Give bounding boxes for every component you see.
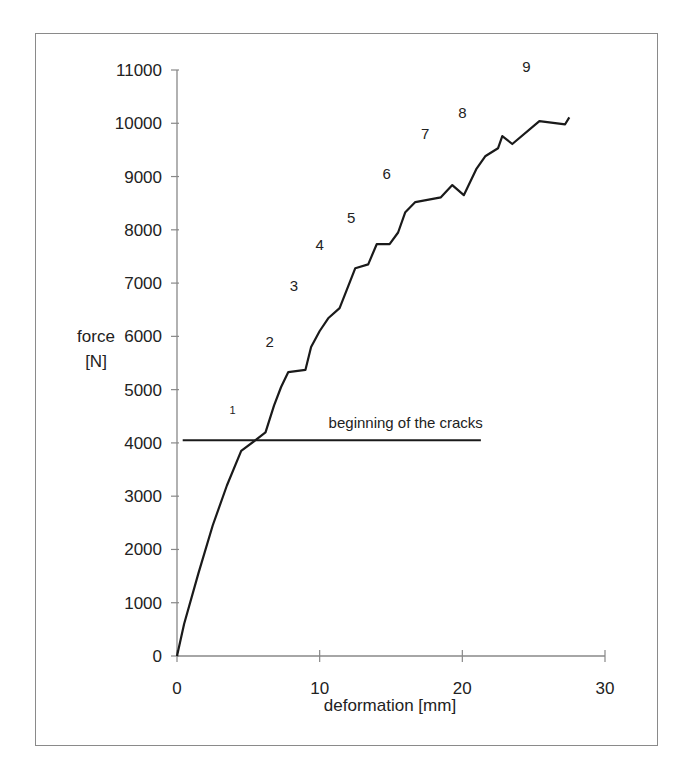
stage-label-2: 2 [266, 333, 274, 350]
data-series [177, 117, 569, 656]
stage-label-8: 8 [458, 104, 466, 121]
x-axis-label: deformation [mm] [324, 696, 456, 715]
y-tick-label: 8000 [124, 221, 162, 240]
stage-label-6: 6 [383, 165, 391, 182]
stage-label-9: 9 [522, 58, 530, 75]
y-tick-label: 2000 [124, 540, 162, 559]
y-axis-label-line2: [N] [85, 352, 107, 371]
force-deformation-chart: 0100020003000400050006000700080009000100… [0, 0, 693, 782]
y-tick-label: 11000 [116, 61, 162, 80]
stage-label-7: 7 [421, 125, 429, 142]
y-axis-label-line1: force [77, 327, 115, 346]
y-tick-label: 9000 [124, 168, 162, 187]
y-tick-label: 7000 [124, 274, 162, 293]
y-tick-label: 4000 [124, 434, 162, 453]
y-tick-label: 1000 [124, 594, 162, 613]
y-tick-label: 3000 [124, 487, 162, 506]
reference-line: beginning of the cracks [183, 414, 483, 440]
stage-label-4: 4 [315, 236, 323, 253]
stage-label-3: 3 [290, 277, 298, 294]
x-tick-label: 30 [596, 679, 615, 698]
y-tick-label: 10000 [115, 114, 162, 133]
annotations: 123456789 [230, 58, 531, 416]
series-line [177, 117, 569, 656]
y-tick-label: 5000 [124, 381, 162, 400]
y-tick-label: 0 [153, 647, 162, 666]
stage-label-5: 5 [347, 209, 355, 226]
stage-label-1: 1 [230, 404, 236, 416]
y-tick-label: 6000 [124, 327, 162, 346]
x-tick-label: 0 [172, 679, 181, 698]
crack-line-label: beginning of the cracks [329, 414, 483, 431]
